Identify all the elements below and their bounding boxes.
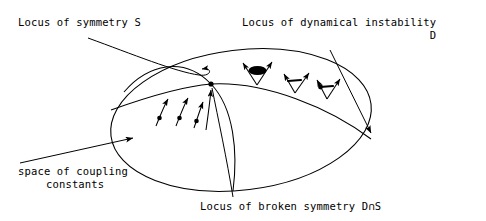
unstable-divergence-marker-2	[284, 73, 309, 93]
leader-line-instability	[330, 50, 371, 133]
instability-label-line2: D	[430, 29, 436, 41]
coupling-constant-space-ellipse	[102, 35, 379, 206]
instability-label-line1: Locus of dynamical instability	[242, 16, 436, 28]
unstable-divergence-marker-1	[243, 62, 272, 85]
stable-flow-arrow-1	[156, 99, 168, 126]
locus-of-symmetry-curve	[124, 67, 235, 191]
stable-flow-arrows	[156, 90, 211, 130]
figure-root: Locus of symmetry S Locus of dynamical i…	[0, 0, 486, 221]
stable-flow-arrow-3	[194, 102, 203, 128]
coupling-label-line1: space of coupling	[18, 165, 128, 177]
unstable-blob	[249, 66, 267, 75]
leader-line-broken-symmetry	[212, 88, 233, 197]
space-of-coupling-constants-label: space of couplingconstants	[18, 165, 128, 190]
stable-flow-arrow-2	[176, 98, 188, 126]
stable-flow-arrow-4	[206, 90, 211, 130]
locus-of-dynamical-instability-label: Locus of dynamical instabilityD	[242, 16, 436, 41]
locus-of-broken-symmetry-label: Locus of broken symmetry D∩S	[200, 200, 381, 213]
unstable-divergence-marker-3	[317, 79, 340, 99]
broken-symmetry-junction-dot	[208, 81, 213, 86]
unstable-divergence-markers	[243, 62, 340, 99]
coupling-label-line2: constants	[18, 178, 128, 191]
locus-of-symmetry-label: Locus of symmetry S	[18, 16, 141, 29]
